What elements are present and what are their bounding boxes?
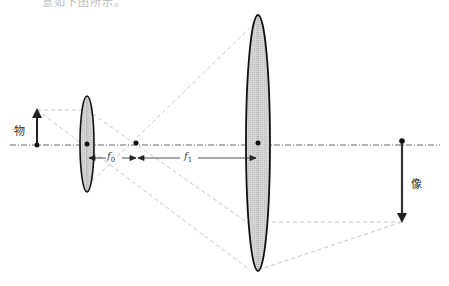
f1-subscript: 1 xyxy=(188,156,192,164)
small-lens xyxy=(80,96,94,192)
f1-label: f1 xyxy=(184,150,192,164)
f0-subscript: 0 xyxy=(111,156,115,164)
large-lens xyxy=(246,15,270,271)
object-label: 物 xyxy=(14,122,25,138)
f1-dimension xyxy=(138,156,256,161)
focal-point xyxy=(134,141,139,146)
image-arrow xyxy=(397,138,407,223)
object-arrow xyxy=(32,108,42,148)
two-lens-diagram: 意如下图所示。 xyxy=(0,0,449,286)
f0-label: f0 xyxy=(107,150,115,164)
image-label: 像 xyxy=(411,175,422,191)
optics-drawing xyxy=(0,0,449,286)
